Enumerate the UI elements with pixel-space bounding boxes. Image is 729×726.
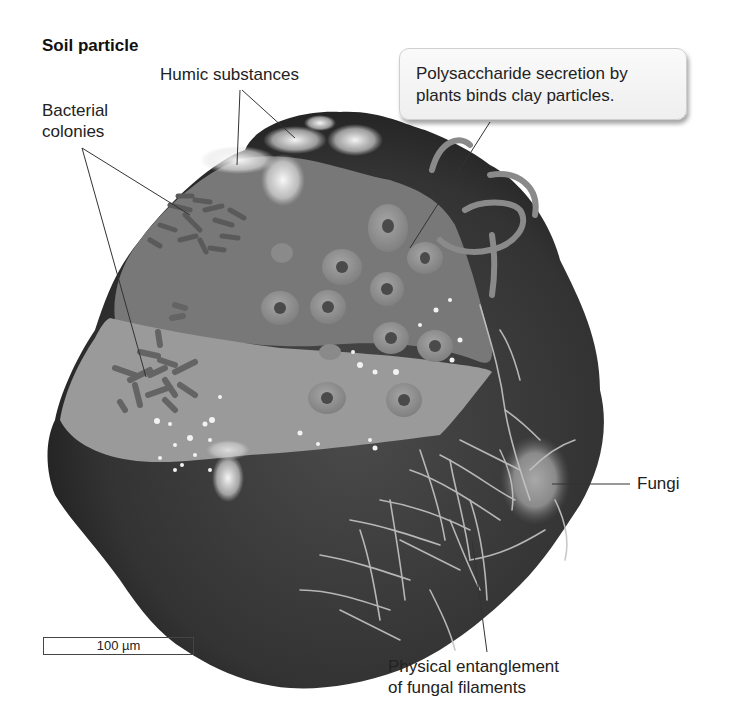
scale-bar: 100 µm — [43, 637, 194, 655]
diagram-title: Soil particle — [42, 36, 138, 56]
label-entangle-line2: of fungal filaments — [388, 677, 559, 698]
label-bacterial-colonies: Bacterial colonies — [42, 100, 108, 142]
callout-line2: plants binds clay particles. — [416, 85, 628, 107]
label-physical-entanglement: Physical entanglement of fungal filament… — [388, 656, 559, 698]
label-humic-substances: Humic substances — [160, 64, 299, 85]
callout-line1: Polysaccharide secretion by — [416, 63, 628, 85]
label-bacterial-line1: Bacterial — [42, 100, 108, 121]
label-bacterial-line2: colonies — [42, 121, 108, 142]
scale-bar-label: 100 µm — [44, 638, 193, 654]
label-entangle-line1: Physical entanglement — [388, 656, 559, 677]
polysaccharide-callout: Polysaccharide secretion by plants binds… — [399, 48, 687, 120]
label-fungi: Fungi — [637, 473, 680, 494]
